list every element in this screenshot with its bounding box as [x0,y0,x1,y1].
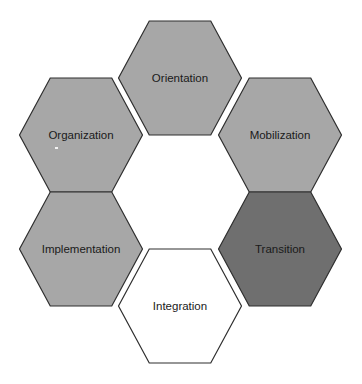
hex-integration: Integration [119,249,242,363]
hex-label-mobilization: Mobilization [250,129,311,141]
hex-implementation: Implementation [20,192,143,306]
hex-label-organization: Organization [48,129,113,141]
hex-organization: Organization [20,78,143,192]
hex-orientation: Orientation [119,21,242,135]
hexagon-diagram: Orientation Organization Mobilization Im… [0,0,362,384]
speck-artifact [55,147,58,149]
hex-label-integration: Integration [153,300,207,312]
hex-label-orientation: Orientation [152,72,208,84]
hex-transition: Transition [219,192,342,306]
hex-label-transition: Transition [255,243,305,255]
hex-mobilization: Mobilization [219,78,342,192]
hex-label-implementation: Implementation [42,243,121,255]
